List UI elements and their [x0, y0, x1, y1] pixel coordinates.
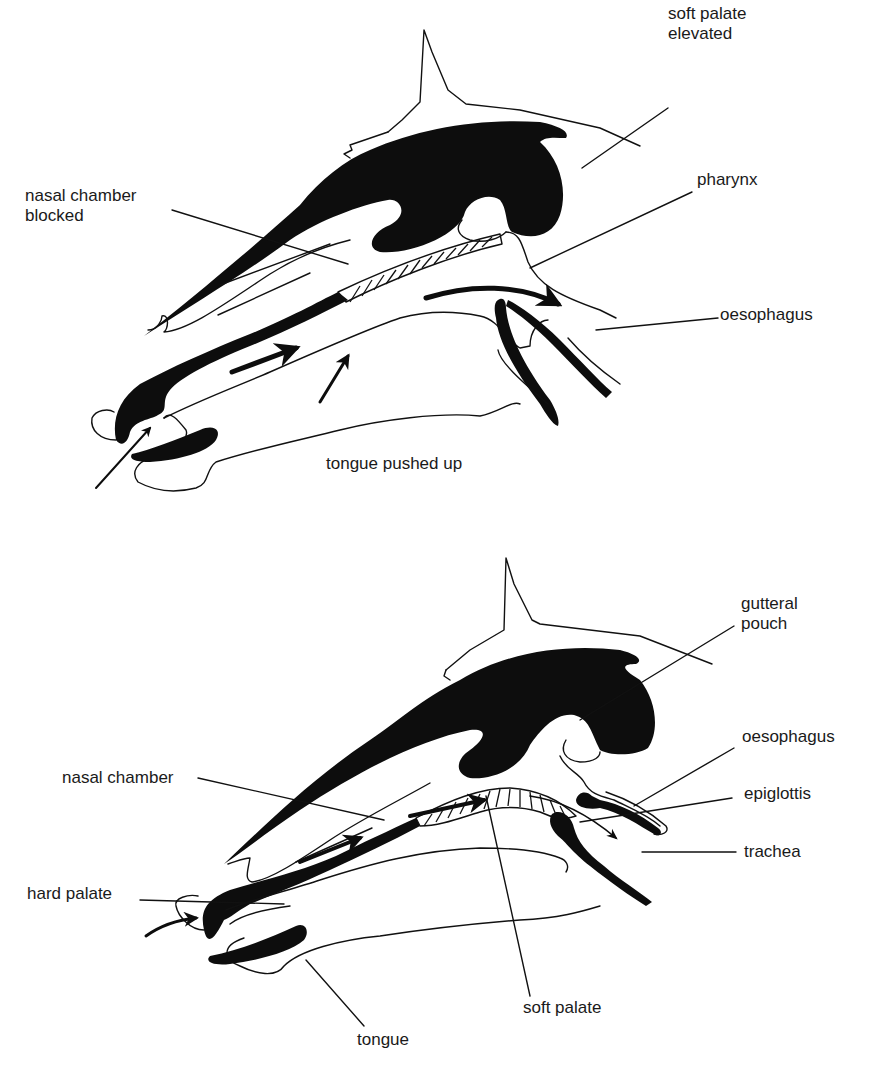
label-trachea: trachea	[744, 842, 801, 862]
horse-head-airway-diagram	[0, 0, 876, 1071]
hard-palate	[115, 292, 348, 444]
tongue-pushed-up	[131, 428, 218, 462]
panel-breathing	[140, 558, 736, 1026]
jaw-outline	[92, 410, 116, 440]
leader-soft-palate-elevated	[582, 108, 668, 168]
label-pharynx: pharynx	[697, 170, 757, 190]
label-oesophagus-bottom: oesophagus	[742, 727, 835, 747]
label-nasal-chamber: nasal chamber	[62, 768, 174, 788]
tongue-bottom	[208, 925, 307, 964]
label-nasal-chamber-blocked: nasal chamber blocked	[25, 186, 137, 226]
label-tongue-pushed-up: tongue pushed up	[326, 454, 462, 474]
label-gutteral-pouch: gutteral pouch	[741, 594, 798, 634]
epiglottis-bottom	[576, 793, 661, 836]
label-soft-palate-elevated: soft palate elevated	[668, 4, 746, 44]
label-soft-palate: soft palate	[523, 998, 601, 1018]
panel-swallowing	[92, 30, 718, 491]
skull-mass-bottom	[224, 648, 655, 864]
label-epiglottis: epiglottis	[744, 784, 811, 804]
leader-oesophagus-bottom	[634, 748, 734, 806]
label-tongue: tongue	[357, 1030, 409, 1050]
label-oesophagus-top: oesophagus	[720, 305, 813, 325]
leader-soft-palate	[486, 796, 530, 996]
leader-tongue	[306, 960, 364, 1026]
leader-oesophagus	[596, 318, 718, 330]
label-hard-palate: hard palate	[27, 884, 112, 904]
